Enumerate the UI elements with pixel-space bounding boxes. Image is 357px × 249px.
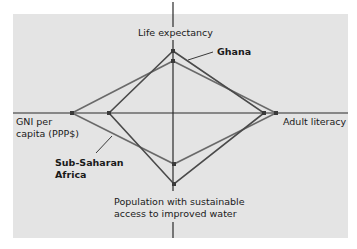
series-ghana [109,51,264,184]
ssa-leader-line [96,136,112,153]
series-label-ghana: Ghana [217,46,251,57]
axis-label-gni-line2: capita (PPP$) [16,128,79,139]
axis-label-adult-literacy: Adult literacy [283,116,346,127]
ghana-leader-line [188,52,213,60]
axis-label-gni-line1: GNI per [16,116,52,127]
axis-label-water-line1: Population with sustainable [114,196,245,207]
series-label-ssa-line2: Africa [55,169,86,180]
axis-label-water-line2: access to improved water [114,208,237,219]
series-label-ssa-line1: Sub-Saharan [55,157,124,168]
axis-label-life-expectancy: Life expectancy [138,27,213,38]
